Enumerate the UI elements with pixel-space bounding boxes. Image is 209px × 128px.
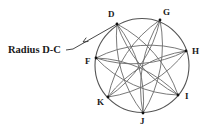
point-D-dot (116, 23, 119, 26)
rosette-diagram (0, 0, 209, 128)
point-label-K: K (97, 98, 104, 107)
lens-arc-F-H (96, 51, 186, 64)
point-F-dot (95, 57, 98, 60)
outer-circle (95, 19, 189, 113)
point-label-G: G (163, 8, 170, 17)
point-I-dot (177, 94, 180, 97)
point-label-H: H (192, 47, 199, 56)
radius-leader-line (66, 24, 117, 50)
point-K-dot (107, 96, 110, 99)
radius-annotation-label: Radius D-C (8, 45, 61, 56)
lens-arc-F-H (96, 45, 186, 58)
point-label-I: I (185, 92, 189, 101)
point-label-D: D (108, 10, 115, 19)
arrowhead-icon (83, 38, 88, 42)
point-J-dot (142, 112, 145, 115)
point-label-J: J (140, 117, 145, 126)
point-G-dot (159, 19, 162, 22)
leader-line (66, 24, 117, 50)
point-H-dot (185, 50, 188, 53)
point-label-F: F (85, 57, 91, 66)
